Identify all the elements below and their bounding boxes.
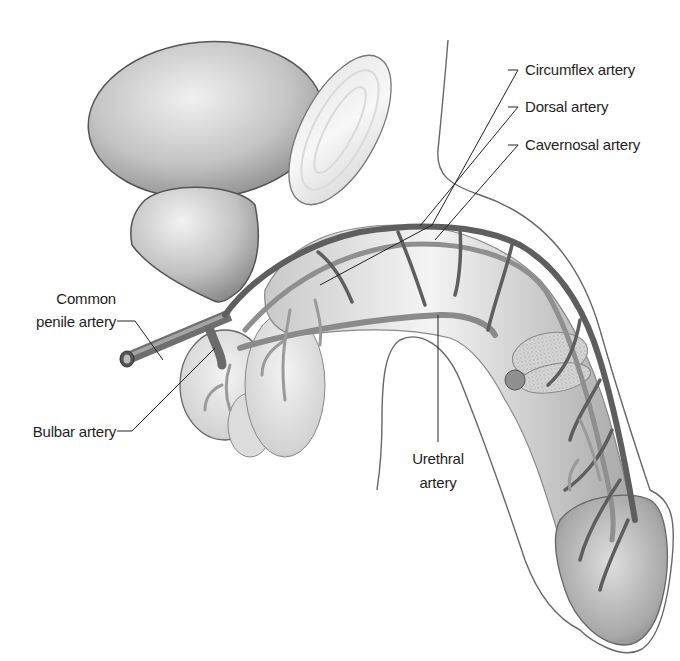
label-common-penile-artery-line1: Common xyxy=(0,290,116,307)
label-circumflex-artery: Circumflex artery xyxy=(525,61,635,78)
label-bulbar-artery: Bulbar artery xyxy=(0,423,116,440)
label-urethral-artery-line1: Urethral xyxy=(398,450,478,467)
label-urethral-artery-line2: artery xyxy=(398,474,478,491)
label-cavernosal-artery: Cavernosal artery xyxy=(525,136,640,153)
label-dorsal-artery: Dorsal artery xyxy=(525,98,608,115)
dorsal-vessel-section xyxy=(505,370,525,390)
label-common-penile-artery-line2: penile artery xyxy=(0,313,116,330)
leader-dorsal xyxy=(420,107,518,226)
prostate xyxy=(131,187,258,302)
